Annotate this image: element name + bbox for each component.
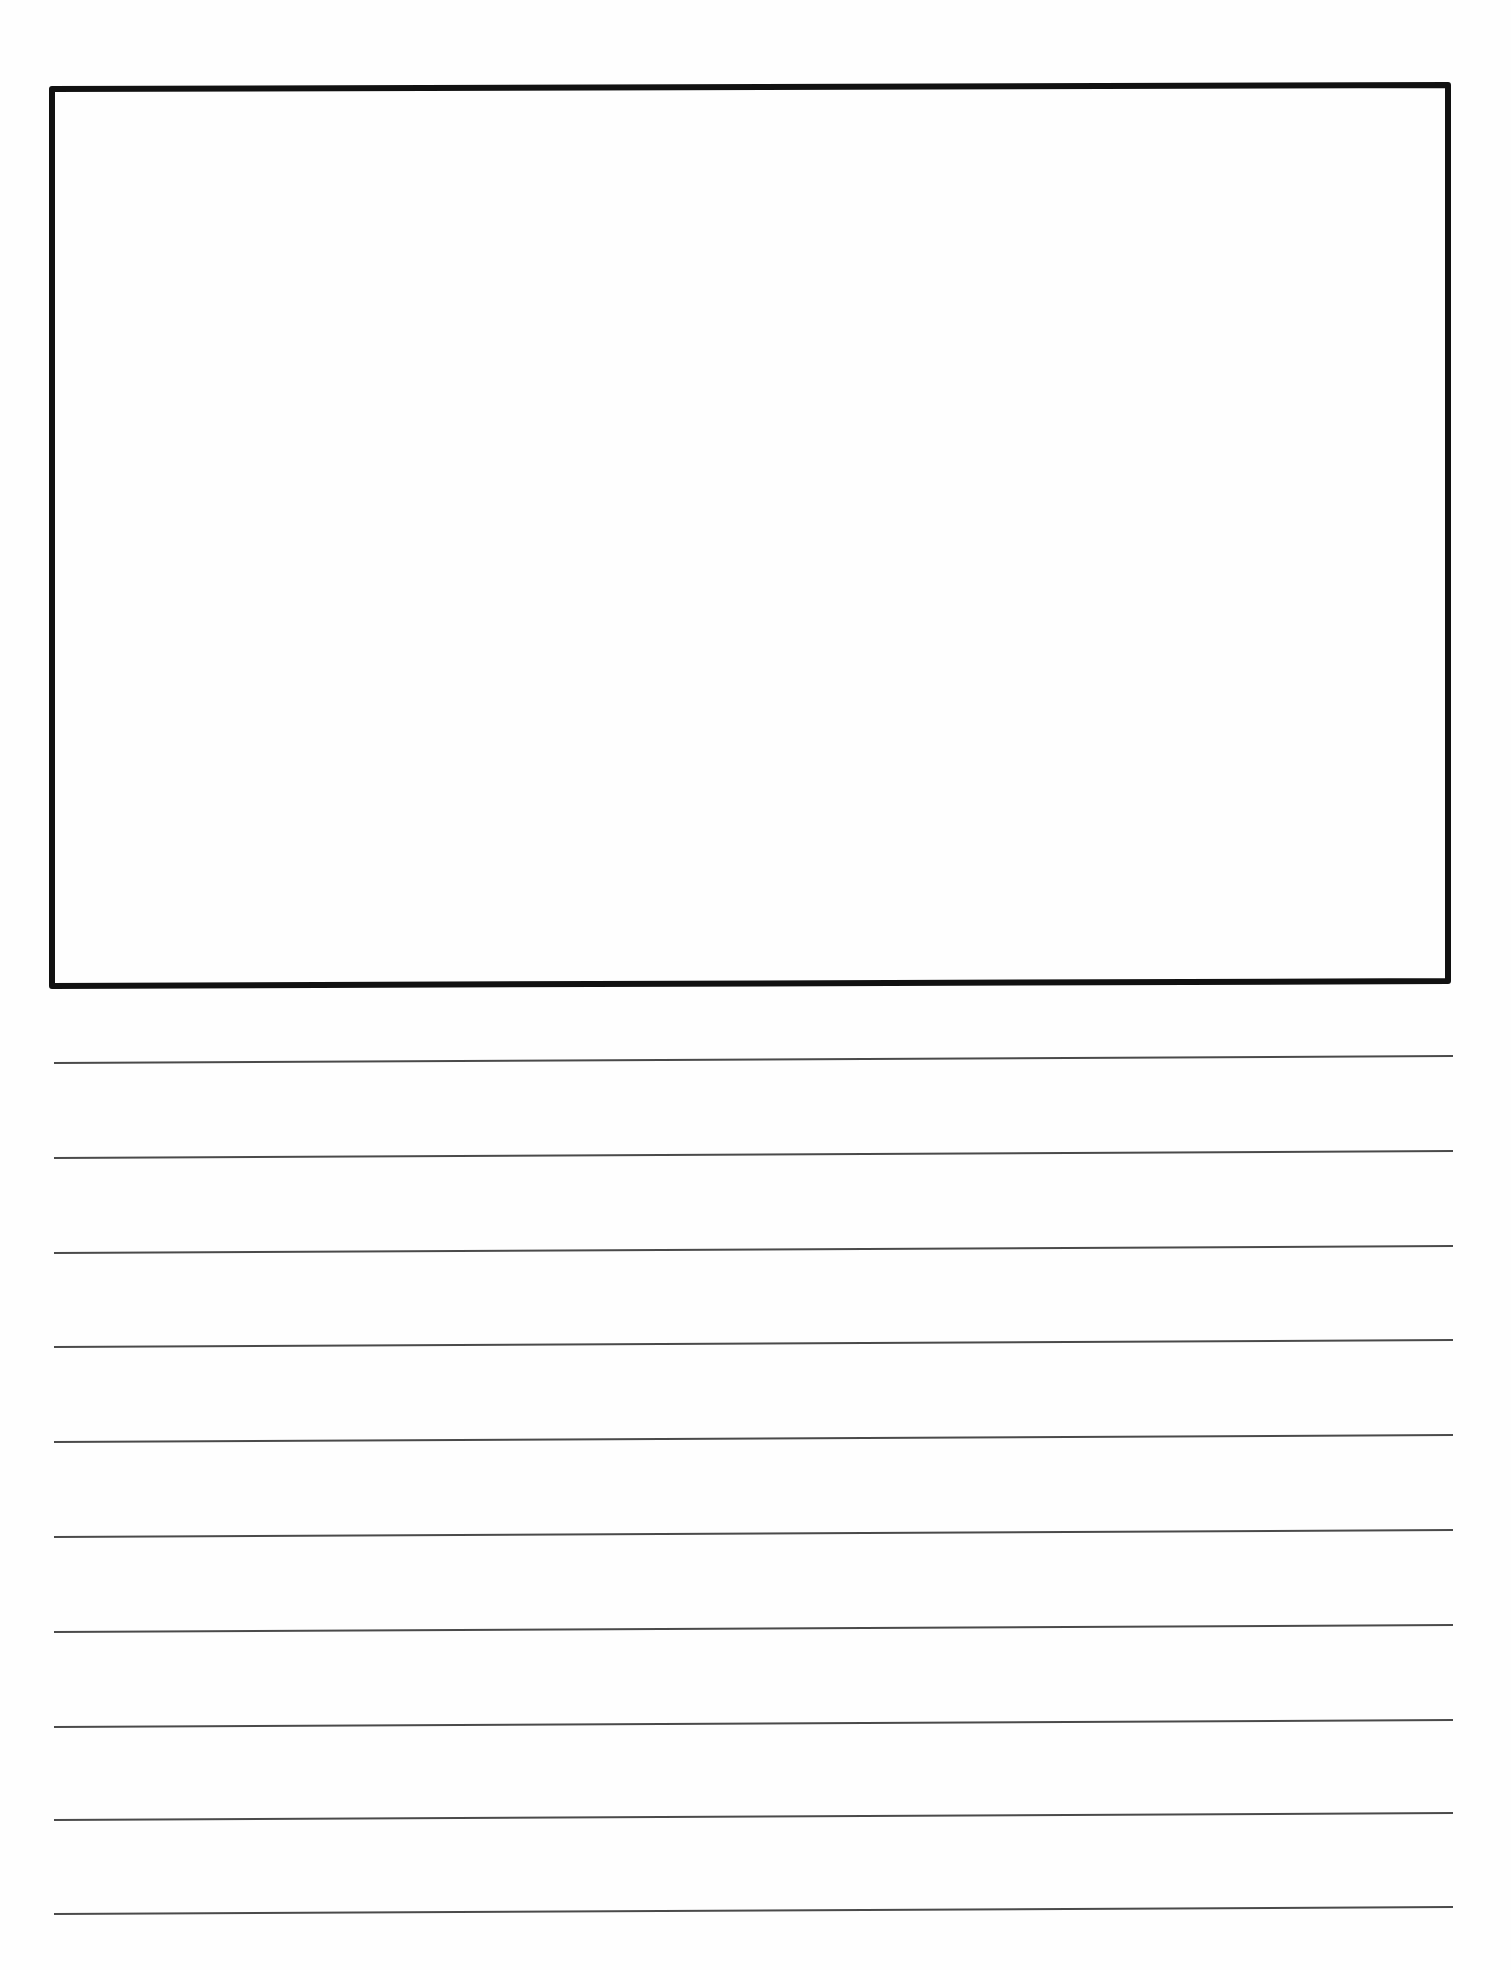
writing-line-5	[54, 1435, 1453, 1442]
writing-line-4	[54, 1340, 1453, 1347]
drawing-box	[52, 85, 1448, 986]
writing-line-6	[54, 1530, 1453, 1537]
writing-line-8	[54, 1720, 1453, 1727]
writing-line-3	[54, 1246, 1453, 1253]
worksheet-page	[0, 0, 1511, 1970]
writing-line-1	[54, 1056, 1453, 1063]
writing-lines-group	[54, 1056, 1453, 1914]
writing-line-9	[54, 1813, 1453, 1820]
writing-line-2	[54, 1151, 1453, 1158]
writing-line-10	[54, 1907, 1453, 1914]
writing-line-7	[54, 1625, 1453, 1632]
worksheet-canvas	[0, 0, 1511, 1970]
